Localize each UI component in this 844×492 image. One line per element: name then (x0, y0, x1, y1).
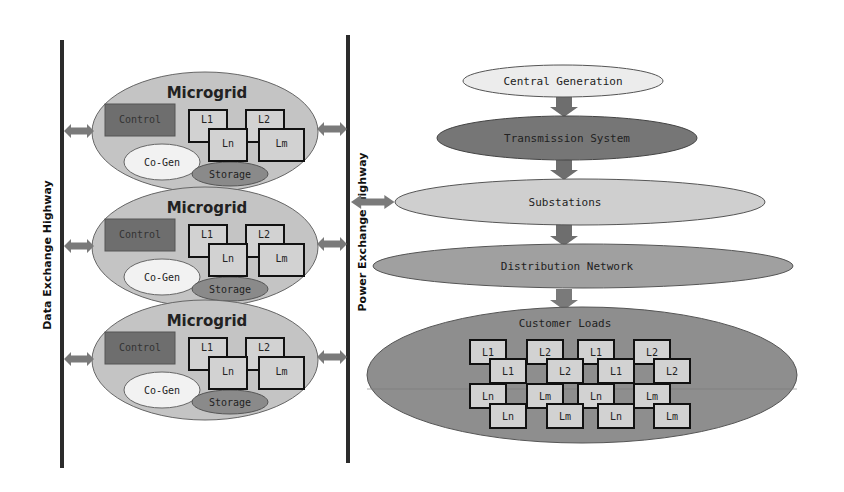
distribution-network-label: Distribution Network (501, 260, 634, 273)
customer-load-label: L1 (482, 347, 494, 358)
power-highway-arrow (317, 237, 347, 251)
microgrid-1: MicrogridControlCo-GenStorageL1L2LnLm (64, 72, 347, 192)
customer-load-box: Lm (654, 404, 690, 428)
power-highway-arrow (317, 122, 347, 136)
load-label: L1 (201, 229, 213, 240)
customer-load-box: Ln (490, 404, 526, 428)
substations-label: Substations (529, 196, 602, 209)
control-label: Control (119, 114, 161, 125)
transmission-system-label: Transmission System (504, 132, 630, 145)
microgrid-title: Microgrid (167, 312, 248, 330)
customer-load-label: Ln (482, 391, 494, 402)
microgrid-2: MicrogridControlCo-GenStorageL1L2LnLm (64, 187, 347, 307)
central-generation-label: Central Generation (503, 75, 622, 88)
data-highway-arrow (64, 124, 94, 138)
power-exchange-highway-line (346, 35, 350, 463)
customer-load-label: L2 (666, 366, 678, 377)
load-label: L2 (258, 114, 270, 125)
down-arrow-3 (550, 224, 578, 246)
microgrid-title: Microgrid (167, 199, 248, 217)
customer-load-label: L2 (539, 347, 551, 358)
customer-load-box: L1 (490, 359, 526, 383)
customer-load-box: Ln (598, 404, 634, 428)
load-label: L1 (201, 342, 213, 353)
diagram-canvas: Data Exchange Highway Power Exchange Hig… (0, 0, 844, 492)
microgrid-title: Microgrid (167, 84, 248, 102)
customer-load-label: L2 (559, 366, 571, 377)
customer-loads-label: Customer Loads (519, 317, 612, 330)
data-exchange-highway-line (60, 40, 64, 468)
load-label: Lm (275, 138, 287, 149)
customer-load-label: Lm (539, 391, 551, 402)
control-label: Control (119, 342, 161, 353)
customer-load-label: Ln (610, 411, 622, 422)
customer-load-box: L2 (654, 359, 690, 383)
load-label: Lm (275, 366, 287, 377)
microgrid-3: MicrogridControlCo-GenStorageL1L2LnLm (64, 300, 347, 420)
storage-label: Storage (209, 169, 251, 180)
customer-load-label: L1 (590, 347, 602, 358)
load-label: Lm (275, 253, 287, 264)
customer-load-box: Lm (547, 404, 583, 428)
customer-load-label: Lm (666, 411, 678, 422)
load-label: Ln (222, 138, 234, 149)
load-label: L2 (258, 229, 270, 240)
down-arrow-2 (550, 160, 578, 180)
data-exchange-highway-label: Data Exchange Highway (41, 180, 54, 330)
customer-load-label: Ln (590, 391, 602, 402)
cogen-label: Co-Gen (144, 157, 180, 168)
load-label: L1 (201, 114, 213, 125)
load-label: Ln (222, 366, 234, 377)
customer-load-label: L1 (610, 366, 622, 377)
customer-load-label: Lm (559, 411, 571, 422)
cogen-label: Co-Gen (144, 272, 180, 283)
storage-label: Storage (209, 284, 251, 295)
load-label: Ln (222, 253, 234, 264)
customer-load-label: Lm (646, 391, 658, 402)
load-label: L2 (258, 342, 270, 353)
data-highway-arrow (64, 239, 94, 253)
power-exchange-highway-label: Power Exchange Highway (356, 153, 369, 312)
data-highway-arrow (64, 352, 94, 366)
customer-load-label: L2 (646, 347, 658, 358)
cogen-label: Co-Gen (144, 385, 180, 396)
down-arrow-1 (550, 97, 578, 117)
customer-load-box: L1 (598, 359, 634, 383)
storage-label: Storage (209, 397, 251, 408)
power-highway-arrow (317, 350, 347, 364)
customer-load-label: Ln (502, 411, 514, 422)
control-label: Control (119, 229, 161, 240)
customer-load-box: L2 (547, 359, 583, 383)
customer-load-label: L1 (502, 366, 514, 377)
